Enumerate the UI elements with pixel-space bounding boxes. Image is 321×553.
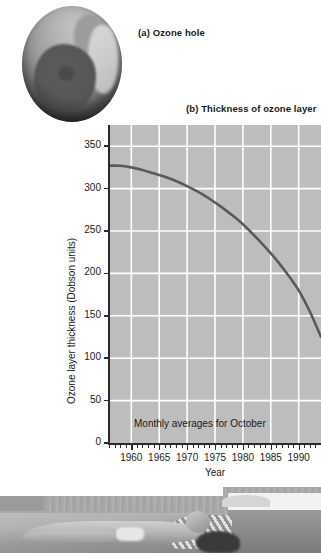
x-tick-minor [260, 444, 261, 448]
y-axis-line [108, 125, 110, 443]
x-tick-major [271, 444, 272, 450]
x-tick-major [243, 444, 244, 450]
x-tick-minor [193, 444, 194, 448]
y-tick-mark [104, 315, 108, 317]
beach-photo [0, 487, 321, 553]
y-tick-label: 350 [67, 139, 101, 150]
x-tick-minor [226, 444, 227, 448]
x-tick-minor [293, 444, 294, 448]
x-tick-minor [126, 444, 127, 448]
x-tick-major [299, 444, 300, 450]
photo-person-head [186, 511, 210, 533]
y-tick-mark [104, 273, 108, 275]
photo-umbrella [222, 495, 270, 507]
x-tick-minor [154, 444, 155, 448]
x-tick-major [159, 444, 160, 450]
x-tick-minor [265, 444, 266, 448]
x-tick-minor [165, 444, 166, 448]
x-tick-minor [115, 444, 116, 448]
x-tick-minor [304, 444, 305, 448]
x-tick-minor [232, 444, 233, 448]
plot-svg [109, 125, 321, 443]
x-tick-minor [137, 444, 138, 448]
x-tick-minor [315, 444, 316, 448]
x-tick-minor [198, 444, 199, 448]
x-tick-minor [282, 444, 283, 448]
photo-top-white-notch-right [46, 487, 223, 496]
y-tick-mark [104, 188, 108, 190]
x-tick-minor [248, 444, 249, 448]
x-tick-minor [109, 444, 110, 448]
x-tick-major [131, 444, 132, 450]
y-tick-mark [104, 357, 108, 359]
plot-area [109, 125, 321, 443]
y-tick-label: 300 [67, 182, 101, 193]
x-tick-minor [204, 444, 205, 448]
x-tick-label: 1990 [279, 452, 319, 463]
y-tick-label: 250 [67, 224, 101, 235]
x-tick-minor [209, 444, 210, 448]
photo-right-region [228, 509, 321, 553]
ozone-thickness-chart: 050100150200250300350 196019651970197519… [0, 0, 321, 480]
chart-annotation: Monthly averages for October [134, 418, 266, 429]
x-tick-minor [221, 444, 222, 448]
x-tick-major [187, 444, 188, 450]
photo-person-hair [196, 531, 240, 553]
x-tick-minor [170, 444, 171, 448]
y-tick-mark [104, 145, 108, 147]
x-axis-title: Year [109, 467, 321, 478]
x-tick-minor [120, 444, 121, 448]
x-tick-minor [276, 444, 277, 448]
x-tick-minor [182, 444, 183, 448]
photo-top-white-notch-left [0, 487, 46, 496]
photo-swimsuit [116, 527, 144, 541]
y-tick-label: 0 [67, 436, 101, 447]
photo-left-patch [0, 496, 44, 511]
x-tick-minor [237, 444, 238, 448]
y-tick-mark [104, 442, 108, 444]
x-tick-minor [288, 444, 289, 448]
y-axis-title: Ozone layer thickness (Dobson units) [66, 238, 77, 404]
y-tick-mark [104, 230, 108, 232]
y-tick-mark [104, 400, 108, 402]
x-tick-minor [142, 444, 143, 448]
x-tick-minor [310, 444, 311, 448]
vertical-gridlines [131, 125, 298, 443]
x-tick-major [215, 444, 216, 450]
x-tick-minor [254, 444, 255, 448]
x-tick-minor [176, 444, 177, 448]
x-tick-minor [148, 444, 149, 448]
